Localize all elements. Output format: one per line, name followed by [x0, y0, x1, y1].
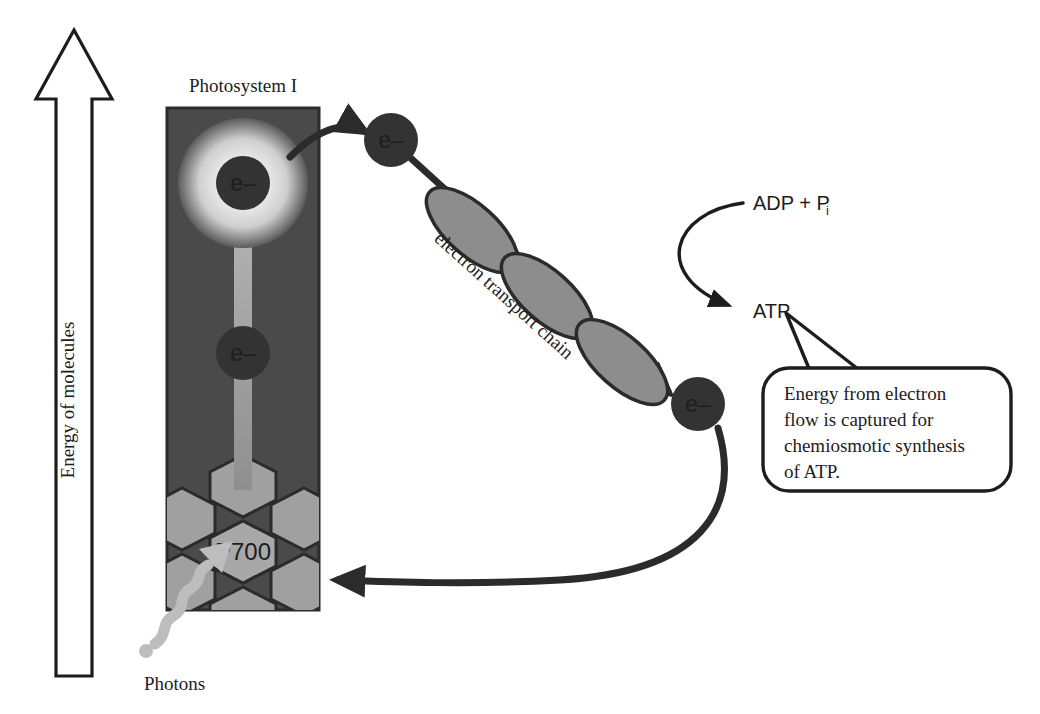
- svg-text:e–: e–: [685, 391, 711, 417]
- canvas-background: [0, 0, 1040, 714]
- excited-electron-label: e–: [230, 170, 256, 196]
- callout-box: Energy from electron flow is captured fo…: [763, 368, 1011, 491]
- diagram-canvas: Energy of molecules Photosystem I: [0, 0, 1040, 714]
- svg-text:i: i: [826, 203, 829, 218]
- electron-leaving-photosystem: e–: [364, 113, 418, 167]
- ground-electron-label: e–: [230, 340, 256, 366]
- svg-text:ADP + P: ADP + P: [753, 192, 830, 214]
- callout-line-3: chemiosmotic synthesis: [784, 435, 965, 456]
- callout-line-4: of ATP.: [784, 461, 840, 482]
- photon-dot: [139, 644, 153, 658]
- energy-axis-label: Energy of molecules: [57, 322, 78, 479]
- electron-entering-photosystem: e–: [671, 377, 725, 431]
- callout-line-2: flow is captured for: [784, 409, 934, 430]
- photosystem-label: Photosystem I: [189, 75, 297, 96]
- callout-line-1: Energy from electron: [784, 383, 947, 404]
- photons-label: Photons: [144, 673, 205, 694]
- photosystem-column: e– e– P700: [149, 108, 337, 649]
- atp-label: ATP: [753, 300, 790, 322]
- svg-text:e–: e–: [378, 127, 404, 153]
